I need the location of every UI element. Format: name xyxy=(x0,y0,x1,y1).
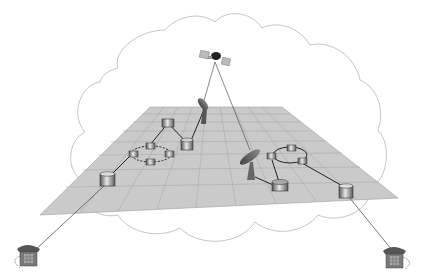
node-left-edge xyxy=(100,172,115,186)
node-right-edge xyxy=(339,184,353,198)
network-diagram xyxy=(0,0,427,275)
node-right-mid xyxy=(272,180,288,192)
telephone-left-icon xyxy=(15,245,40,268)
telephone-right-icon xyxy=(383,247,410,269)
node-left-mid xyxy=(181,138,193,150)
diagram-canvas xyxy=(0,0,427,275)
node-left-top xyxy=(162,119,174,127)
